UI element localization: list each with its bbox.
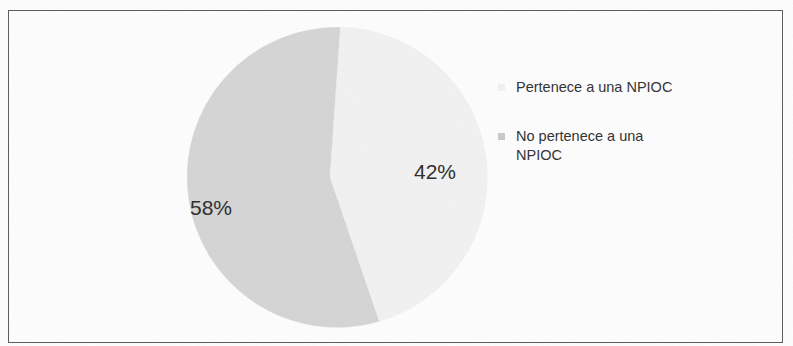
legend-item-no-pertenece[interactable]: No pertenece a una NPIOC <box>498 127 748 165</box>
pie-chart-plot-area: 42% 58% <box>0 0 500 346</box>
legend-swatch-icon <box>498 84 505 91</box>
figure-root: 42% 58% Pertenece a una NPIOC No pertene… <box>0 0 793 346</box>
legend-item-label: No pertenece a una NPIOC <box>516 127 691 165</box>
legend-swatch-icon <box>498 133 505 140</box>
legend-item-pertenece[interactable]: Pertenece a una NPIOC <box>498 78 748 97</box>
pie-data-label-pertenece: 42% <box>414 160 456 184</box>
legend-item-label: Pertenece a una NPIOC <box>516 78 672 97</box>
chart-legend: Pertenece a una NPIOC No pertenece a una… <box>498 78 748 195</box>
pie-data-label-no-pertenece: 58% <box>190 196 232 220</box>
